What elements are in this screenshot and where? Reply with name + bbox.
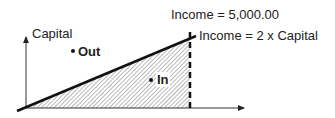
point-in bbox=[149, 78, 153, 82]
y-axis-label: Capital bbox=[32, 26, 72, 41]
point-in-label: In bbox=[156, 72, 170, 87]
point-out bbox=[71, 49, 75, 53]
income-limit-label: Income = 5,000.00 bbox=[171, 7, 279, 22]
income-capital-label: Income = 2 x Capital bbox=[199, 28, 318, 43]
point-out-label: Out bbox=[78, 44, 100, 59]
diagram-canvas bbox=[0, 0, 335, 118]
